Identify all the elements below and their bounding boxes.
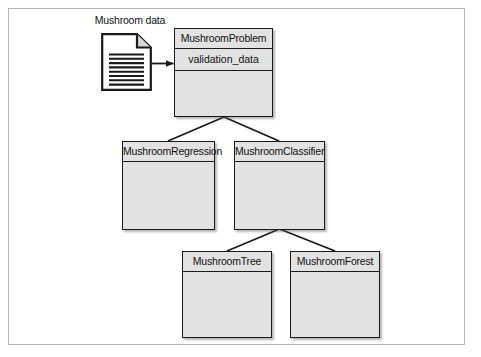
class-name-mushroom-tree: MushroomTree	[183, 252, 271, 272]
uml-class-diagram: Mushroom data MushroomProblem validation…	[0, 0, 481, 357]
class-operations-mushroom-regression	[123, 162, 214, 229]
class-box-mushroom-classifier[interactable]: MushroomClassifier	[234, 141, 325, 230]
class-box-mushroom-regression[interactable]: MushroomRegression	[122, 141, 215, 230]
class-name-mushroom-forest: MushroomForest	[291, 252, 379, 272]
class-name-mushroom-classifier: MushroomClassifier	[235, 142, 324, 162]
edge-problem-to-classifier	[224, 117, 279, 141]
edge-classifier-to-forest	[280, 229, 336, 251]
class-operations-mushroom-tree	[183, 272, 271, 337]
edge-problem-to-regression	[168, 117, 224, 141]
class-box-mushroom-problem[interactable]: MushroomProblem validation_data	[174, 28, 273, 117]
class-attribute-validation-data: validation_data	[175, 49, 272, 71]
data-source-label: Mushroom data	[92, 14, 168, 26]
class-operations-mushroom-problem	[175, 71, 272, 116]
document-icon	[101, 33, 152, 91]
class-box-mushroom-forest[interactable]: MushroomForest	[290, 251, 380, 338]
class-name-mushroom-problem: MushroomProblem	[175, 29, 272, 49]
class-operations-mushroom-classifier	[235, 162, 324, 229]
class-box-mushroom-tree[interactable]: MushroomTree	[182, 251, 272, 338]
class-operations-mushroom-forest	[291, 272, 379, 337]
edge-classifier-to-tree	[227, 229, 280, 251]
class-name-mushroom-regression: MushroomRegression	[123, 142, 214, 162]
